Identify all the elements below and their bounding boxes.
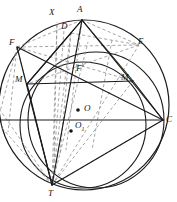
line-d-e <box>71 33 139 45</box>
geometry-figure: X A D F E M M F' O O1 C T <box>0 0 177 202</box>
label-point-c: C <box>166 115 172 124</box>
line-m-right-c <box>133 81 163 120</box>
label-point-o: O <box>84 104 91 113</box>
label-f-prime-mark: ' <box>82 63 84 73</box>
center-o-dot <box>76 108 80 112</box>
label-point-o1: O1 <box>75 121 85 132</box>
line-t-m-right <box>52 81 133 185</box>
label-point-m-right: M <box>121 73 129 82</box>
geometry-canvas <box>0 0 177 202</box>
line-vert-right <box>92 40 112 150</box>
label-point-e: E <box>138 37 144 46</box>
label-point-x: X <box>49 8 55 17</box>
label-o1-subscript: 1 <box>82 126 85 132</box>
label-point-f-prime: F' <box>76 64 83 73</box>
label-point-t: T <box>48 189 53 198</box>
center-o1-dot <box>69 129 73 133</box>
line-d-down <box>60 33 71 155</box>
label-point-d: D <box>61 22 68 31</box>
line-m-m-chord <box>27 81 133 84</box>
label-point-f: F <box>9 38 15 47</box>
line-f-e-chord <box>17 45 139 47</box>
label-point-a: A <box>77 5 83 14</box>
label-point-m-left: M <box>15 75 23 84</box>
line-t-left-mid <box>0 110 52 185</box>
line-t-c <box>52 120 163 185</box>
